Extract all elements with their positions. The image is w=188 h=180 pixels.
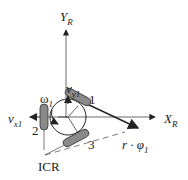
wheel-2-label: 2 — [32, 124, 39, 137]
vy1-label: vy1 — [66, 82, 80, 99]
y-axis-label: YR — [60, 10, 73, 27]
x-axis-label: XR — [164, 112, 177, 129]
wheel-3-label: 3 — [88, 138, 95, 151]
wheel-1-label: 1 — [89, 93, 96, 106]
r-phi-label: r · φ1 — [122, 138, 149, 155]
robot-kinematics-diagram — [0, 0, 188, 180]
vx1-label: vx1 — [8, 112, 22, 129]
omega1-label: ω1 — [40, 92, 53, 109]
wheel-3 — [62, 128, 90, 148]
icr-label: ICR — [38, 160, 60, 173]
